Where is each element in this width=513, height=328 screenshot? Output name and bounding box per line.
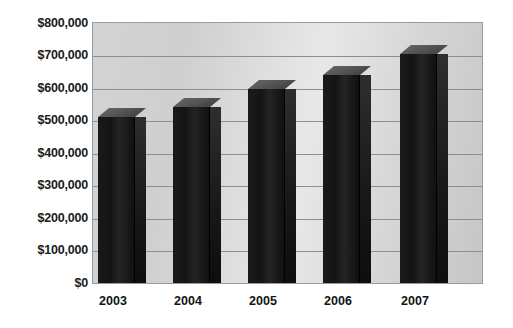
y-tick-label: $700,000 [2, 48, 88, 62]
bar-2004 [173, 98, 223, 283]
bar-chart: $800,000 $700,000 $600,000 $500,000 $400… [0, 0, 513, 328]
y-tick-label: $800,000 [2, 16, 88, 30]
bar-2007 [400, 45, 450, 283]
x-tick-label-2007: 2007 [401, 294, 429, 308]
y-tick-label: $0 [2, 276, 88, 290]
y-tick-label: $600,000 [2, 81, 88, 95]
bar-side-face [360, 75, 371, 283]
bar-side-face [210, 107, 221, 283]
bar-top-face [173, 98, 221, 107]
bar-top-face [98, 108, 146, 117]
y-tick-label: $500,000 [2, 113, 88, 127]
x-tick-label-2005: 2005 [249, 294, 277, 308]
bar-side-face [285, 89, 296, 283]
y-tick-label: $400,000 [2, 146, 88, 160]
gridline [93, 283, 482, 284]
plot-area [92, 22, 483, 284]
bar-front-face [400, 54, 437, 283]
bar-front-face [248, 89, 285, 283]
bar-front-face [173, 107, 210, 283]
y-tick-label: $300,000 [2, 178, 88, 192]
x-tick-label-2004: 2004 [174, 294, 202, 308]
bar-front-face [98, 117, 135, 283]
y-tick-label: $200,000 [2, 211, 88, 225]
bar-side-face [437, 54, 448, 283]
x-tick-label-2006: 2006 [324, 294, 352, 308]
x-tick-label-2003: 2003 [99, 294, 127, 308]
bar-front-face [323, 75, 360, 283]
bar-2005 [248, 80, 298, 283]
bar-top-face [323, 66, 371, 75]
y-axis: $800,000 $700,000 $600,000 $500,000 $400… [0, 0, 88, 328]
bar-top-face [248, 80, 296, 89]
bar-side-face [135, 117, 146, 283]
y-tick-label: $100,000 [2, 243, 88, 257]
bar-2003 [98, 108, 148, 283]
bar-top-face [400, 45, 448, 54]
bar-2006 [323, 66, 373, 283]
